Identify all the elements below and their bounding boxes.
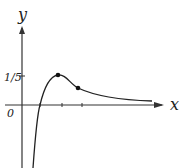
inflection-point (76, 86, 81, 91)
x-axis-label: x (170, 95, 179, 114)
y-tick-label: 1/5 (4, 71, 22, 84)
origin-label: 0 (7, 107, 14, 120)
maximum-point (56, 73, 61, 78)
y-axis-arrow-icon (19, 26, 25, 34)
x-axis-arrow-icon (154, 102, 164, 108)
function-curve (33, 75, 152, 168)
y-axis-label: y (17, 5, 28, 24)
function-sketch: y x 0 1/5 (0, 0, 192, 168)
